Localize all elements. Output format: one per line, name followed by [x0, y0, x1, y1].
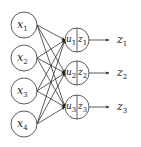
input-node-3: x3	[11, 78, 37, 104]
input-node-2: x2	[11, 45, 37, 71]
hidden-units: u1z1u2z2u3z3	[65, 28, 89, 119]
edge-arrow	[37, 40, 65, 58]
unit-node-3: u3z3	[65, 95, 89, 119]
connection-edges	[37, 25, 65, 124]
unit-node-2: u2z2	[65, 61, 89, 85]
output-labels: z1z2z3	[89, 33, 127, 115]
unit-node-1: u1z1	[65, 28, 89, 52]
edge-arrow	[37, 73, 65, 124]
edge-arrow	[37, 107, 65, 124]
output-label-3: z3	[116, 100, 127, 115]
neural-network-diagram: x1x2x3x4 u1z1u2z2u3z3 z1z2z3	[0, 0, 141, 147]
input-node-1: x1	[11, 12, 37, 38]
output-label-2: z2	[116, 66, 127, 81]
input-node-4: x4	[11, 111, 37, 137]
input-nodes: x1x2x3x4	[11, 12, 37, 137]
edge-arrow	[37, 40, 65, 124]
output-label-1: z1	[116, 33, 127, 48]
